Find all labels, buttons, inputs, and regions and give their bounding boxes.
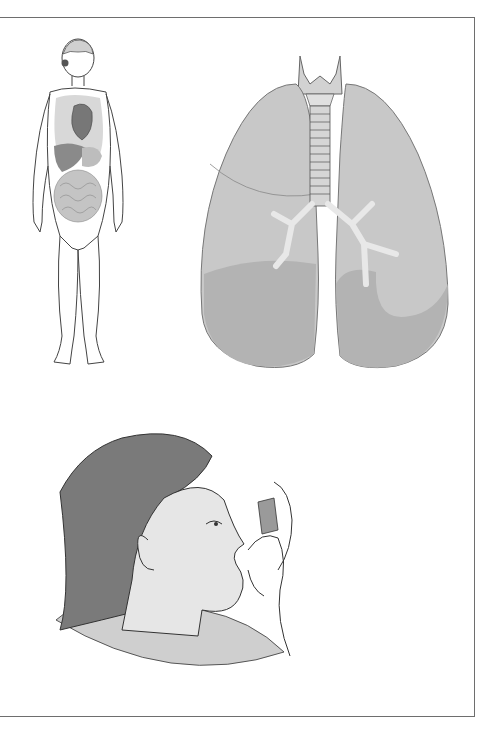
- inhaler-user-illustration: [52, 420, 322, 680]
- lungs-illustration: [196, 54, 454, 378]
- inhaler-person-icon: [52, 420, 322, 680]
- lungs-icon: [196, 54, 454, 378]
- body-icon: [20, 36, 130, 372]
- body-organs-illustration: [20, 36, 130, 372]
